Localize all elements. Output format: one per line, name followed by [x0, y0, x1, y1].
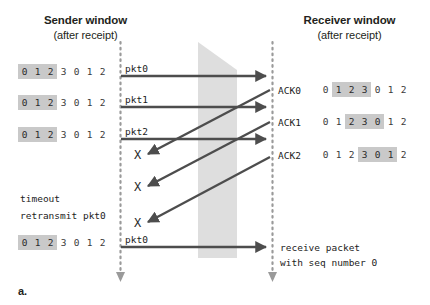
- seq-cell: 2: [96, 95, 109, 110]
- seq-cell: 2: [44, 64, 57, 79]
- sender-window-row: 0123012: [18, 235, 109, 250]
- seq-cell: 3: [57, 95, 70, 110]
- packet-label-pkt2: pkt2: [125, 125, 148, 138]
- loss-mark-ack0: X: [134, 149, 141, 161]
- seq-cell: 3: [57, 127, 70, 142]
- timeout-label-line2: retransmit pkt0: [20, 209, 106, 222]
- seq-cell: 3: [57, 235, 70, 250]
- receiver-header-title: Receiver window: [272, 13, 427, 28]
- seq-cell: 1: [384, 147, 397, 162]
- seq-cell: 1: [83, 127, 96, 142]
- panel-label: a.: [18, 285, 27, 297]
- seq-cell: 0: [371, 147, 384, 162]
- seq-cell: 2: [397, 82, 410, 97]
- packet-label-pkt0-retransmit: pkt0: [125, 233, 148, 246]
- seq-cell: 2: [345, 114, 358, 129]
- sender-window-row: 0123012: [18, 127, 109, 142]
- receiver-window-row: 0123012: [319, 147, 410, 162]
- seq-cell: 0: [319, 114, 332, 129]
- seq-cell: 0: [70, 127, 83, 142]
- ack-label-ack1: ACK1: [278, 116, 301, 129]
- seq-cell: 1: [83, 95, 96, 110]
- figure-canvas: Sender window (after receipt) Receiver w…: [0, 0, 430, 305]
- ack-label-ack2: ACK2: [278, 149, 301, 162]
- timeout-label-line1: timeout: [20, 192, 60, 205]
- seq-cell: 0: [70, 235, 83, 250]
- sender-window-row: 0123012: [18, 95, 109, 110]
- seq-cell: 2: [345, 147, 358, 162]
- receiver-window-header: Receiver window (after receipt): [272, 13, 427, 42]
- seq-cell: 0: [319, 147, 332, 162]
- receiver-timeline-arrowhead: [268, 272, 277, 282]
- seq-cell: 1: [384, 114, 397, 129]
- seq-cell: 2: [345, 82, 358, 97]
- seq-cell: 1: [31, 95, 44, 110]
- seq-cell: 0: [70, 64, 83, 79]
- seq-cell: 2: [397, 147, 410, 162]
- packet-label-pkt0: pkt0: [125, 62, 148, 75]
- sender-header-title: Sender window: [8, 13, 163, 28]
- seq-cell: 2: [96, 127, 109, 142]
- packet-label-pkt1: pkt1: [125, 93, 148, 106]
- receive-label-line1: receive packet: [280, 241, 360, 254]
- sender-header-subtitle: (after receipt): [8, 28, 163, 42]
- seq-cell: 2: [96, 235, 109, 250]
- receiver-window-row: 0123012: [319, 82, 410, 97]
- ack-label-ack0: ACK0: [278, 84, 301, 97]
- seq-cell: 0: [18, 235, 31, 250]
- seq-cell: 3: [358, 82, 371, 97]
- seq-cell: 1: [332, 147, 345, 162]
- receiver-window-row: 0123012: [319, 114, 410, 129]
- seq-cell: 2: [44, 235, 57, 250]
- sender-window-header: Sender window (after receipt): [8, 13, 163, 42]
- seq-cell: 1: [332, 114, 345, 129]
- sender-timeline-arrowhead: [116, 272, 125, 282]
- seq-cell: 2: [397, 114, 410, 129]
- seq-cell: 0: [70, 95, 83, 110]
- seq-cell: 2: [44, 95, 57, 110]
- seq-cell: 1: [31, 127, 44, 142]
- receiver-header-subtitle: (after receipt): [272, 28, 427, 42]
- seq-cell: 0: [371, 114, 384, 129]
- loss-mark-ack2: X: [134, 217, 141, 229]
- seq-cell: 1: [332, 82, 345, 97]
- seq-cell: 0: [319, 82, 332, 97]
- seq-cell: 3: [358, 114, 371, 129]
- seq-cell: 0: [18, 64, 31, 79]
- seq-cell: 0: [371, 82, 384, 97]
- seq-cell: 2: [96, 64, 109, 79]
- seq-cell: 1: [31, 235, 44, 250]
- seq-cell: 1: [384, 82, 397, 97]
- seq-cell: 3: [358, 147, 371, 162]
- seq-cell: 2: [44, 127, 57, 142]
- receive-label-line2: with seq number 0: [280, 256, 377, 269]
- seq-cell: 1: [31, 64, 44, 79]
- seq-cell: 0: [18, 95, 31, 110]
- sender-window-row: 0123012: [18, 64, 109, 79]
- seq-cell: 1: [83, 235, 96, 250]
- loss-mark-ack1: X: [134, 181, 141, 193]
- seq-cell: 3: [57, 64, 70, 79]
- seq-cell: 0: [18, 127, 31, 142]
- seq-cell: 1: [83, 64, 96, 79]
